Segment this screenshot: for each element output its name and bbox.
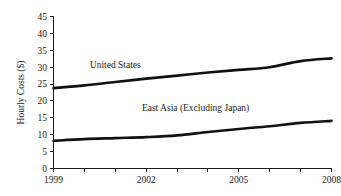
x-axis-ticks	[54, 169, 332, 173]
data-series	[54, 58, 332, 140]
series-annotations: United StatesEast Asia (Excluding Japan)	[90, 60, 249, 115]
y-axis-title-text: Hourly Costs ($)	[16, 61, 27, 125]
y-tick-label: 5	[42, 147, 47, 157]
y-tick-label: 30	[38, 63, 48, 73]
y-tick-label: 40	[38, 29, 48, 39]
y-tick-label: 15	[38, 113, 48, 123]
y-axis-tick-labels: 051015202530354045	[38, 12, 48, 174]
series-line-east-asia	[54, 121, 332, 141]
y-axis-ticks	[50, 17, 54, 169]
y-tick-label: 20	[38, 96, 48, 106]
x-tick-label: 1999	[44, 175, 63, 185]
chart-container: 051015202530354045 1999200220052008 Unit…	[0, 0, 341, 196]
series-label-united-states: United States	[90, 60, 141, 70]
y-tick-label: 0	[42, 164, 47, 174]
x-tick-label: 2008	[322, 175, 341, 185]
axes	[54, 17, 332, 169]
y-tick-label: 10	[38, 130, 48, 140]
y-tick-label: 45	[38, 12, 48, 22]
series-label-east-asia: East Asia (Excluding Japan)	[142, 103, 249, 114]
line-chart: 051015202530354045 1999200220052008 Unit…	[0, 0, 341, 196]
x-tick-label: 2002	[137, 175, 156, 185]
x-axis-tick-labels: 1999200220052008	[44, 175, 341, 185]
y-tick-label: 35	[38, 46, 48, 56]
y-tick-label: 25	[38, 79, 48, 89]
x-tick-label: 2005	[229, 175, 248, 185]
y-axis-title: Hourly Costs ($)	[16, 61, 27, 125]
